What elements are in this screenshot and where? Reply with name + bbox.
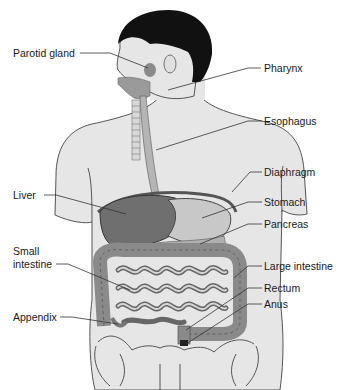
label-stomach: Stomach [264, 196, 305, 208]
label-large-intestine: Large intestine [264, 260, 333, 272]
label-esophagus: Esophagus [264, 115, 317, 127]
ear [164, 55, 176, 73]
digestive-system-diagram: Parotid gland Liver Small intestine Appe… [0, 0, 345, 390]
label-liver: Liver [13, 189, 36, 201]
pharynx-organ [118, 77, 150, 99]
label-pharynx: Pharynx [264, 62, 303, 74]
label-diaphragm: Diaphragm [264, 166, 315, 178]
label-pancreas: Pancreas [264, 218, 308, 230]
label-anus: Anus [264, 298, 288, 310]
trachea [132, 100, 140, 160]
label-small-intestine-line2: intestine [13, 258, 52, 270]
anus-organ [180, 340, 188, 346]
label-small-intestine-line1: Small [13, 245, 39, 257]
label-parotid-gland: Parotid gland [13, 47, 75, 59]
parotid-gland-organ [144, 63, 156, 77]
label-appendix: Appendix [13, 311, 57, 323]
label-rectum: Rectum [264, 282, 300, 294]
